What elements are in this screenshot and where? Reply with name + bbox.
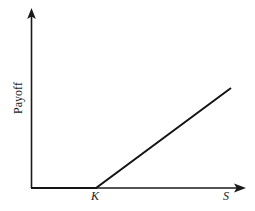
x-axis-label: S (223, 190, 229, 202)
y-axis-label: Payoff (12, 70, 24, 126)
payoff-curve (31, 88, 231, 188)
call-option-payoff-figure: Payoff K S (0, 0, 255, 211)
x-axis-strike-tick-label: K (91, 190, 99, 202)
payoff-chart-canvas (0, 0, 255, 211)
